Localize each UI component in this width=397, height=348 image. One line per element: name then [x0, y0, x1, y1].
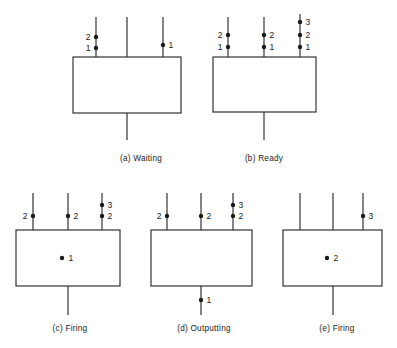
panel-b-input-arc-3: 321 [298, 14, 311, 57]
token-dot [100, 214, 104, 218]
figure-container: 211(a) Waiting2121321(b) Ready22321(c) F… [0, 0, 397, 348]
panel-e: 32(e) Firing [283, 193, 382, 333]
token-count-label: 2 [306, 30, 311, 40]
token-count-label: 3 [306, 17, 311, 27]
panel-e-input-arc-3: 3 [361, 193, 374, 230]
token-dot [199, 298, 203, 302]
token-dot [298, 20, 302, 24]
token-count-label: 1 [218, 42, 223, 52]
panel-c: 22321(c) Firing [16, 193, 120, 333]
panel-c-caption: (c) Firing [53, 324, 88, 333]
panel-a-transition-box[interactable] [73, 57, 181, 113]
token-count-label: 2 [23, 211, 28, 221]
panel-d: 22321(d) Outputting [151, 193, 252, 333]
token-count-label: 2 [207, 211, 212, 221]
token-count-label: 3 [369, 211, 374, 221]
token-dot [94, 35, 98, 39]
token-dot [231, 214, 235, 218]
panel-b: 2121321(b) Ready [213, 14, 316, 163]
panel-d-transition-box[interactable] [151, 230, 252, 286]
panel-a: 211(a) Waiting [73, 17, 181, 163]
token-dot [262, 45, 266, 49]
token-dot [94, 46, 98, 50]
panel-a-caption: (a) Waiting [120, 154, 162, 163]
panel-b-input-arc-1: 21 [218, 17, 230, 57]
panel-b-caption: (b) Ready [245, 154, 284, 163]
token-dot [298, 45, 302, 49]
panel-a-input-arc-1: 21 [86, 17, 98, 57]
token-dot [231, 203, 235, 207]
token-count-label: 2 [218, 30, 223, 40]
token-dot [60, 256, 64, 260]
token-dot [226, 33, 230, 37]
token-dot [66, 214, 70, 218]
token-count-label: 1 [270, 42, 275, 52]
token-count-label: 3 [239, 200, 244, 210]
token-count-label: 1 [69, 253, 74, 263]
panel-b-input-arc-2: 21 [262, 17, 275, 57]
token-count-label: 2 [334, 253, 339, 263]
panel-e-transition-box[interactable] [283, 230, 382, 286]
token-dot [262, 33, 266, 37]
panel-d-output-arc-1: 1 [199, 286, 212, 315]
token-count-label: 2 [157, 211, 162, 221]
token-dot [226, 45, 230, 49]
token-dot [199, 214, 203, 218]
panel-c-input-arc-3: 32 [100, 193, 113, 230]
token-count-label: 2 [239, 211, 244, 221]
token-dot [161, 43, 165, 47]
token-count-label: 2 [108, 211, 113, 221]
token-dot [298, 33, 302, 37]
petri-net-figure: 211(a) Waiting2121321(b) Ready22321(c) F… [0, 0, 397, 348]
token-count-label: 2 [270, 30, 275, 40]
token-dot [325, 256, 329, 260]
token-count-label: 1 [86, 43, 91, 53]
panel-d-caption: (d) Outputting [177, 324, 231, 333]
panel-c-input-arc-2: 2 [66, 193, 79, 230]
token-dot [100, 203, 104, 207]
token-count-label: 1 [306, 42, 311, 52]
panel-c-input-arc-1: 2 [23, 193, 35, 230]
panel-b-transition-box[interactable] [213, 57, 316, 112]
token-count-label: 2 [86, 32, 91, 42]
panel-d-input-arc-1: 2 [157, 193, 169, 230]
token-count-label: 3 [108, 200, 113, 210]
token-count-label: 1 [169, 40, 174, 50]
panel-d-input-arc-2: 2 [199, 193, 212, 230]
token-dot [165, 214, 169, 218]
token-count-label: 1 [207, 295, 212, 305]
token-dot [31, 214, 35, 218]
panel-d-input-arc-3: 32 [231, 193, 244, 230]
token-count-label: 2 [74, 211, 79, 221]
token-dot [361, 214, 365, 218]
panel-a-input-arc-3: 1 [161, 17, 174, 57]
panel-e-caption: (e) Firing [319, 324, 354, 333]
